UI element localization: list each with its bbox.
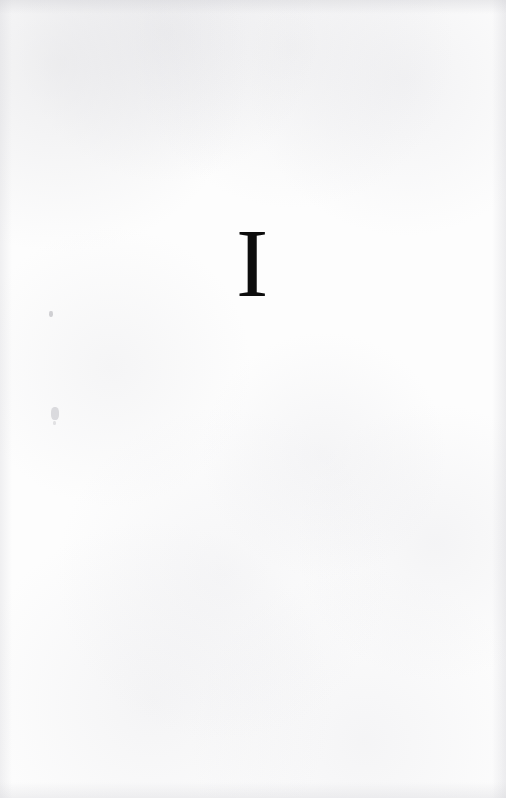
scan-speck-lower-dot [53,421,56,425]
scanned-page: I [0,0,506,798]
part-number-numeral: I [0,215,506,312]
paper-texture [0,0,506,798]
scan-edge-vignette [0,0,506,798]
scan-speck-lower [51,407,59,420]
